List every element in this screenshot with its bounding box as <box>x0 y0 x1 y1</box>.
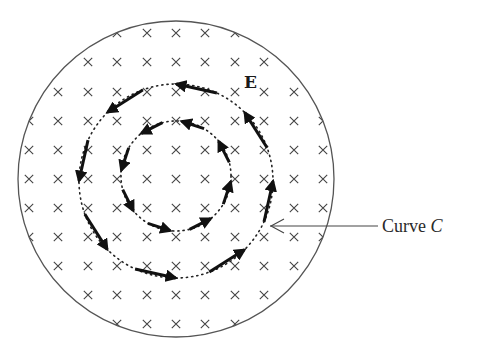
cross-icon <box>113 291 121 299</box>
inner-curve <box>121 121 231 231</box>
cross-icon <box>54 233 62 241</box>
cross-icon <box>231 175 239 183</box>
cross-icon <box>84 58 92 66</box>
cross-icon <box>290 175 298 183</box>
cross-icon <box>290 233 298 241</box>
cross-icon <box>113 88 121 96</box>
cross-icon <box>290 204 298 212</box>
cross-icon <box>143 117 151 125</box>
cross-icon <box>260 262 268 270</box>
cross-icon <box>231 233 239 241</box>
e-field-arrow-icon <box>85 214 107 249</box>
cross-icon <box>201 320 209 328</box>
cross-icon <box>231 88 239 96</box>
cross-icon <box>201 58 209 66</box>
cross-icon <box>25 204 33 212</box>
cross-icon <box>25 146 33 154</box>
e-field-arrow-icon <box>264 181 273 222</box>
cross-icon <box>201 146 209 154</box>
e-field-arrow-icon <box>123 190 134 211</box>
cross-icon <box>172 233 180 241</box>
cross-icon <box>84 88 92 96</box>
cross-icon <box>143 175 151 183</box>
cross-icon <box>172 291 180 299</box>
cross-icon <box>260 117 268 125</box>
cross-icon <box>260 175 268 183</box>
e-field-arrow-icon <box>219 141 230 162</box>
cross-icon <box>319 146 327 154</box>
cross-icon <box>25 175 33 183</box>
cross-icon <box>54 175 62 183</box>
curve-label-text: Curve <box>382 216 431 236</box>
cross-icon <box>143 29 151 37</box>
cross-icon <box>143 291 151 299</box>
electric-field-curves <box>79 84 273 278</box>
cross-icon <box>54 262 62 270</box>
cross-icon <box>84 175 92 183</box>
cross-icon <box>113 262 121 270</box>
field-diagram <box>0 0 486 347</box>
cross-icon <box>201 233 209 241</box>
cross-icon <box>290 117 298 125</box>
cross-icon <box>143 233 151 241</box>
cross-icon <box>143 320 151 328</box>
cross-icon <box>172 320 180 328</box>
cross-icon <box>260 58 268 66</box>
cross-icon <box>201 29 209 37</box>
cross-icon <box>143 146 151 154</box>
cross-icon <box>143 204 151 212</box>
cross-icon <box>260 88 268 96</box>
cross-icon <box>143 58 151 66</box>
cross-icon <box>113 233 121 241</box>
cross-icon <box>231 146 239 154</box>
cross-icon <box>113 117 121 125</box>
cross-icon <box>113 146 121 154</box>
cross-icon <box>172 146 180 154</box>
cross-icon <box>201 204 209 212</box>
curve-c-pointer <box>270 219 378 233</box>
cross-icon <box>113 58 121 66</box>
cross-icon <box>113 175 121 183</box>
cross-icon <box>231 58 239 66</box>
e-field-arrow-icon <box>135 269 176 278</box>
cross-icon <box>84 262 92 270</box>
figure: E Curve C <box>0 0 486 347</box>
cross-icon <box>172 88 180 96</box>
cross-icon <box>201 291 209 299</box>
cross-icon <box>290 88 298 96</box>
cross-icon <box>201 175 209 183</box>
cross-icon <box>172 175 180 183</box>
cross-icon <box>172 204 180 212</box>
cross-icon <box>54 146 62 154</box>
cross-icon <box>290 146 298 154</box>
curve-c-label: Curve C <box>382 217 443 235</box>
e-field-arrow-icon <box>176 84 217 93</box>
cross-icon <box>260 291 268 299</box>
cross-icon <box>231 291 239 299</box>
e-field-arrow-icon <box>190 219 211 230</box>
e-field-arrow-icon <box>148 223 170 230</box>
cross-icon <box>172 58 180 66</box>
cross-icon <box>231 117 239 125</box>
e-field-arrow-icon <box>223 182 230 204</box>
outer-curve-C <box>79 84 273 278</box>
cross-icon <box>260 233 268 241</box>
cross-icon <box>172 29 180 37</box>
cross-icon <box>84 117 92 125</box>
curve-label-variable: C <box>431 216 443 236</box>
e-field-arrow-icon <box>245 113 267 148</box>
cross-icon <box>290 262 298 270</box>
cross-icon <box>143 262 151 270</box>
e-field-arrow-icon <box>209 250 244 272</box>
cross-icon <box>231 262 239 270</box>
cross-icon <box>84 233 92 241</box>
cross-icon <box>113 204 121 212</box>
e-field-arrow-icon <box>121 148 128 170</box>
cross-icon <box>201 262 209 270</box>
cross-icon <box>54 204 62 212</box>
cross-icon <box>84 291 92 299</box>
cross-icon <box>54 117 62 125</box>
cross-icon <box>319 204 327 212</box>
electric-field-label: E <box>244 74 257 91</box>
magnetic-field-crosses <box>25 29 327 328</box>
